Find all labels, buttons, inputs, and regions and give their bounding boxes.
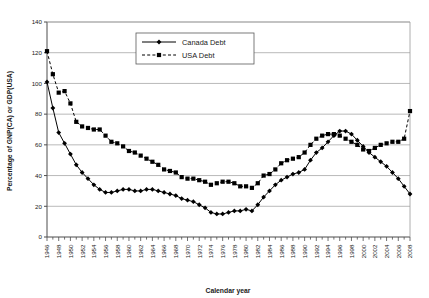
data-point-marker — [343, 137, 347, 141]
data-point-marker — [303, 150, 307, 154]
x-tick-label: 1994 — [324, 244, 331, 258]
data-point-marker — [267, 172, 271, 176]
x-tick-label: 1948 — [55, 244, 62, 258]
data-point-marker — [191, 177, 195, 181]
data-point-marker — [156, 163, 160, 167]
data-point-marker — [121, 144, 125, 148]
x-tick-label: 1954 — [90, 244, 97, 258]
data-point-marker — [86, 126, 90, 130]
data-point-marker — [62, 89, 66, 93]
y-tick-label: 0 — [39, 233, 43, 240]
data-point-marker — [390, 140, 394, 144]
x-tick-label: 1974 — [207, 244, 214, 258]
y-tick-label: 60 — [35, 141, 42, 148]
y-axis-title: Percentage of GNP(CA) or GDP(USA) — [6, 71, 14, 191]
data-point-marker — [332, 132, 336, 136]
data-point-marker — [180, 175, 184, 179]
data-point-marker — [74, 120, 78, 124]
x-tick-label: 2004 — [383, 244, 390, 258]
data-point-marker — [338, 134, 342, 138]
data-point-marker — [384, 141, 388, 145]
data-point-marker — [109, 140, 113, 144]
data-point-marker — [326, 132, 330, 136]
data-point-marker — [150, 160, 154, 164]
debt-line-chart: 020406080100120140 194619481950195219541… — [0, 0, 429, 298]
data-point-marker — [262, 173, 266, 177]
data-point-marker — [215, 181, 219, 185]
x-tick-label: 1976 — [219, 244, 226, 258]
x-tick-label: 1978 — [231, 244, 238, 258]
data-point-marker — [238, 184, 242, 188]
data-point-marker — [226, 180, 230, 184]
x-tick-label: 1990 — [301, 244, 308, 258]
data-point-marker — [174, 170, 178, 174]
data-point-marker — [373, 146, 377, 150]
x-tick-label: 1992 — [313, 244, 320, 258]
x-tick-label: 1966 — [160, 244, 167, 258]
x-tick-label: 1958 — [114, 244, 121, 258]
data-point-marker — [244, 184, 248, 188]
data-point-marker — [139, 154, 143, 158]
data-point-marker — [168, 169, 172, 173]
chart-figure: 020406080100120140 194619481950195219541… — [0, 0, 429, 298]
data-point-marker — [98, 127, 102, 131]
data-point-marker — [133, 150, 137, 154]
data-point-marker — [291, 157, 295, 161]
data-point-marker — [408, 109, 412, 113]
data-point-marker — [51, 72, 55, 76]
x-tick-label: 1960 — [125, 244, 132, 258]
x-tick-label: 1962 — [137, 244, 144, 258]
data-point-marker — [57, 91, 61, 95]
x-axis-title: Calendar year — [206, 287, 251, 295]
data-point-marker — [232, 181, 236, 185]
data-point-marker — [80, 124, 84, 128]
data-point-marker — [367, 149, 371, 153]
legend-label: USA Debt — [182, 51, 214, 60]
x-tick-label: 1970 — [184, 244, 191, 258]
data-point-marker — [103, 134, 107, 138]
data-point-marker — [221, 180, 225, 184]
x-tick-label: 1964 — [149, 244, 156, 258]
data-point-marker — [209, 183, 213, 187]
y-tick-label: 140 — [32, 18, 43, 25]
data-point-marker — [314, 137, 318, 141]
data-point-marker — [127, 149, 131, 153]
y-tick-label: 20 — [35, 203, 42, 210]
data-point-marker — [361, 147, 365, 151]
data-point-marker — [203, 180, 207, 184]
x-tick-label: 2000 — [360, 244, 367, 258]
data-point-marker — [45, 49, 49, 53]
data-point-marker — [185, 177, 189, 181]
x-tick-label: 1986 — [278, 244, 285, 258]
x-tick-label: 2006 — [395, 244, 402, 258]
data-point-marker — [279, 161, 283, 165]
data-point-marker — [68, 101, 72, 105]
data-point-marker — [115, 141, 119, 145]
x-tick-label: 1998 — [348, 244, 355, 258]
y-tick-label: 80 — [35, 110, 42, 117]
data-point-marker — [92, 127, 96, 131]
data-point-marker — [285, 158, 289, 162]
x-tick-label: 1946 — [43, 244, 50, 258]
data-point-marker — [402, 137, 406, 141]
x-tick-label: 1968 — [172, 244, 179, 258]
x-tick-label: 1982 — [254, 244, 261, 258]
x-tick-label: 2008 — [406, 244, 413, 258]
data-point-marker — [250, 186, 254, 190]
x-tick-label: 1984 — [266, 244, 273, 258]
data-point-marker — [256, 181, 260, 185]
x-tick-label: 1956 — [102, 244, 109, 258]
x-tick-label: 1980 — [242, 244, 249, 258]
y-tick-label: 40 — [35, 172, 42, 179]
x-tick-label: 1996 — [336, 244, 343, 258]
x-tick-label: 2002 — [371, 244, 378, 258]
data-point-marker — [157, 53, 161, 57]
data-point-marker — [197, 178, 201, 182]
data-point-marker — [396, 140, 400, 144]
data-point-marker — [308, 143, 312, 147]
y-tick-label: 120 — [32, 49, 43, 56]
data-point-marker — [355, 143, 359, 147]
x-tick-label: 1952 — [79, 244, 86, 258]
data-point-marker — [273, 167, 277, 171]
data-point-marker — [144, 157, 148, 161]
